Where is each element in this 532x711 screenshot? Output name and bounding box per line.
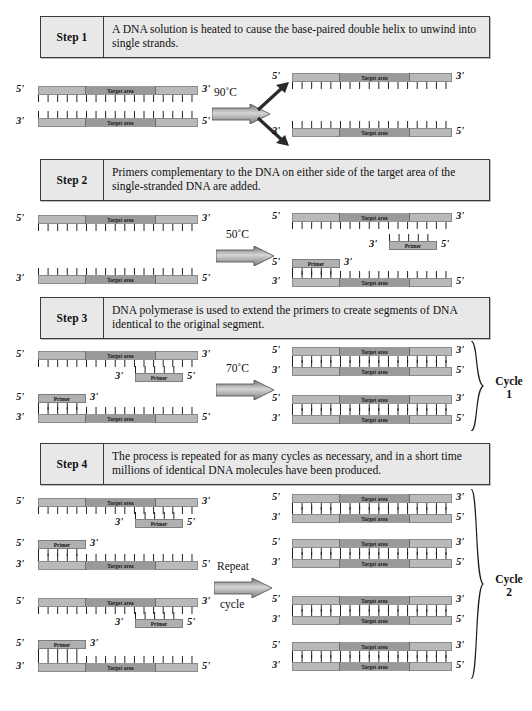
target-area-label: Target area [361, 129, 388, 135]
primer-end-label: 5' [187, 370, 195, 381]
target-area-label: Target area [361, 396, 388, 402]
dna-strand-single-top: Target area [38, 598, 198, 607]
primer-end-label: 3' [90, 391, 98, 402]
target-area-label: Target area [361, 416, 388, 422]
strand-end-label: 3' [202, 348, 210, 359]
primer-end-label: 5' [187, 516, 195, 527]
strand-end-label: 5' [456, 412, 464, 423]
target-area-segment: Target area [339, 347, 410, 356]
cycle-1-name: Cycle [495, 375, 522, 387]
target-area-segment: Target area [85, 351, 156, 360]
target-area-segment: Target area [85, 275, 156, 284]
strand-end-label: 5' [272, 593, 280, 604]
strand-end-label: 3' [272, 364, 280, 375]
base-pair-ticks [292, 271, 452, 278]
dna-strand-single-bottom: Target area [292, 278, 452, 287]
step-4-number: Step 4 [41, 444, 104, 484]
target-area-label: Target area [361, 368, 388, 374]
strand-end-label: 3' [202, 595, 210, 606]
base-pair-ticks [38, 649, 86, 656]
target-area-segment: Target area [339, 539, 410, 548]
strand-end-label: 5' [272, 392, 280, 403]
strand-end-label: 3' [272, 511, 280, 522]
step-2-text: Primers complementary to the DNA on eith… [104, 160, 489, 200]
strand-end-label: 3' [456, 536, 464, 547]
strand-end-label: 3' [272, 659, 280, 670]
strand-end-label: 5' [456, 511, 464, 522]
base-pair-ticks [38, 111, 198, 118]
strand-end-label: 5' [272, 70, 280, 81]
strand-end-label: 3' [456, 639, 464, 650]
dna-strand-single-top: Target area [292, 73, 452, 82]
cycle-1-brace [469, 341, 485, 435]
step-1-text: A DNA solution is heated to cause the ba… [104, 17, 489, 57]
base-pair-ticks [292, 552, 452, 559]
primer-end-label: 5' [441, 238, 449, 249]
strand-end-label: 3' [456, 70, 464, 81]
target-area-segment: Target area [85, 215, 156, 224]
cycle-1-label: Cycle 1 [489, 375, 529, 401]
strand-end-label: 5' [456, 364, 464, 375]
strand-end-label: 5' [202, 558, 210, 569]
target-area-label: Target area [107, 415, 134, 421]
primer-left: Primer [38, 640, 86, 649]
base-pair-ticks [292, 121, 452, 128]
step-3-text: DNA polymerase is used to extend the pri… [104, 298, 489, 338]
primer-end-label: 3' [115, 370, 123, 381]
dna-strand-single-bottom: Target area [38, 663, 198, 672]
strand-end-label: 3' [456, 210, 464, 221]
primer-left: Primer [292, 259, 340, 268]
dna-strand-top: Target area [292, 596, 452, 605]
temperature-label-50c: 50˚C [226, 228, 249, 240]
target-area-label: Target area [107, 664, 134, 670]
primer-right: Primer [135, 519, 183, 528]
dna-strand-single-top: Target area [292, 213, 452, 222]
base-pair-ticks [38, 407, 198, 414]
cycle-2-brace [469, 489, 485, 683]
strand-end-label: 5' [202, 411, 210, 422]
strand-end-label: 3' [272, 275, 280, 286]
target-area-segment: Target area [339, 278, 410, 287]
step-2-number: Step 2 [41, 160, 104, 200]
base-pair-ticks [292, 609, 452, 616]
target-area-segment: Target area [85, 118, 156, 127]
dna-strand-single-bottom: Target area [292, 128, 452, 137]
primer-left: Primer [38, 394, 86, 403]
base-pair-ticks [292, 222, 452, 229]
base-pair-ticks [38, 656, 198, 663]
target-area-label: Target area [361, 643, 388, 649]
primer-bar: Primer [135, 519, 183, 528]
cycle-2-name: Cycle [495, 573, 522, 585]
strand-end-label: 3' [16, 558, 24, 569]
primer-label: Primer [54, 396, 70, 402]
strand-end-label: 5' [272, 536, 280, 547]
target-area-label: Target area [361, 560, 388, 566]
target-area-segment: Target area [85, 598, 156, 607]
repeat-label-line1: Repeat [217, 560, 249, 572]
temperature-label-90c: 90˚C [214, 86, 237, 98]
step-4-box: Step 4 The process is repeated for as ma… [40, 443, 490, 485]
dna-strand-single-top: Target area [38, 215, 198, 224]
target-area-segment: Target area [85, 561, 156, 570]
base-pair-ticks [292, 655, 452, 662]
process-arrow [214, 578, 272, 598]
strand-end-label: 5' [16, 83, 24, 94]
dna-strand-bottom: Target area [292, 616, 452, 625]
strand-end-label: 5' [202, 660, 210, 671]
primer-right: Primer [389, 241, 437, 250]
base-pair-ticks [389, 234, 437, 241]
target-area-label: Target area [361, 74, 388, 80]
cycle-2-label: Cycle 2 [489, 573, 529, 599]
primer-end-label: 3' [344, 256, 352, 267]
dna-strand-top: Target area [292, 494, 452, 503]
temperature-label-70c: 70˚C [226, 362, 249, 374]
base-pair-ticks [135, 612, 183, 619]
dna-strand-top: Target area [292, 347, 452, 356]
primer-label: Primer [151, 375, 167, 381]
strand-end-label: 5' [272, 639, 280, 650]
target-area-label: Target area [361, 495, 388, 501]
base-pair-ticks [135, 512, 183, 519]
target-area-label: Target area [361, 663, 388, 669]
dna-strand-single-bottom: Target area [38, 414, 198, 423]
target-area-segment: Target area [339, 616, 410, 625]
